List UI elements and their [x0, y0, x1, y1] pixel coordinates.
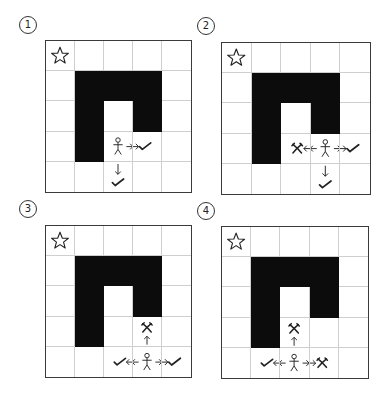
grid-cell — [340, 73, 370, 103]
grid-cell — [133, 347, 162, 377]
grid-cell — [340, 134, 370, 164]
grid-cell — [281, 164, 311, 194]
wall-cell — [251, 318, 280, 348]
grid-cell — [133, 162, 162, 192]
grid-cell — [133, 226, 162, 256]
panel-label: 2 — [197, 17, 215, 35]
grid-cell — [310, 227, 339, 257]
grid-cell — [46, 286, 75, 316]
wall-cell — [252, 134, 282, 164]
grid-cell — [252, 164, 282, 194]
grid-cell — [162, 256, 191, 286]
grid-cell — [133, 132, 162, 162]
grid-cell — [104, 132, 133, 162]
wall-cell — [75, 317, 104, 347]
grid-cell — [162, 162, 191, 192]
grid-cell — [75, 226, 104, 256]
grid-cell — [104, 162, 133, 192]
panel-1-grid — [45, 40, 192, 193]
grid-cell — [162, 226, 191, 256]
grid-cell — [162, 101, 191, 131]
wall-cell — [311, 103, 341, 133]
panel-label: 3 — [19, 200, 37, 218]
grid-cell — [133, 41, 162, 71]
grid-cell — [280, 287, 309, 317]
grid-cell — [162, 286, 191, 316]
wall-cell — [104, 71, 133, 101]
grid-cell — [222, 318, 251, 348]
wall-cell — [252, 73, 282, 103]
grid-cell — [75, 162, 104, 192]
wall-cell — [133, 101, 162, 131]
grid-cell — [222, 43, 252, 73]
grid-cell — [104, 347, 133, 377]
grid-cell — [311, 164, 341, 194]
grid-cell — [104, 101, 133, 131]
grid-cell — [46, 71, 75, 101]
grid-cell — [251, 348, 280, 378]
wall-cell — [133, 256, 162, 286]
panel-3-grid — [45, 225, 192, 378]
grid-cell — [104, 226, 133, 256]
grid-cell — [311, 134, 341, 164]
grid-cell — [252, 43, 282, 73]
grid-cell — [280, 318, 309, 348]
wall-cell — [104, 256, 133, 286]
grid-cell — [310, 348, 339, 378]
wall-cell — [311, 73, 341, 103]
grid-cell — [162, 132, 191, 162]
grid-cell — [222, 164, 252, 194]
grid-cell — [133, 317, 162, 347]
grid-cell — [46, 41, 75, 71]
grid-cell — [162, 71, 191, 101]
wall-cell — [251, 287, 280, 317]
grid-cell — [340, 164, 370, 194]
grid-cell — [280, 227, 309, 257]
grid-cell — [222, 287, 251, 317]
wall-cell — [280, 257, 309, 287]
grid-cell — [46, 162, 75, 192]
grid-cell — [46, 256, 75, 286]
grid-cell — [281, 43, 311, 73]
grid-cell — [104, 286, 133, 316]
grid-cell — [339, 257, 368, 287]
panel-label: 4 — [197, 202, 215, 220]
grid-cell — [222, 103, 252, 133]
grid-cell — [222, 134, 252, 164]
grid-cell — [280, 348, 309, 378]
grid-cell — [162, 41, 191, 71]
grid-cell — [251, 227, 280, 257]
grid-cell — [46, 317, 75, 347]
grid-cell — [340, 103, 370, 133]
grid-cell — [281, 103, 311, 133]
grid-cell — [104, 41, 133, 71]
grid-cell — [310, 318, 339, 348]
grid-cell — [339, 287, 368, 317]
wall-cell — [133, 286, 162, 316]
grid-cell — [222, 73, 252, 103]
grid-cell — [339, 348, 368, 378]
grid-cell — [311, 43, 341, 73]
grid-cell — [162, 347, 191, 377]
grid-cell — [339, 227, 368, 257]
wall-cell — [75, 71, 104, 101]
wall-cell — [310, 257, 339, 287]
wall-cell — [281, 73, 311, 103]
grid-cell — [222, 227, 251, 257]
grid-cell — [104, 317, 133, 347]
grid-cell — [46, 101, 75, 131]
grid-cell — [75, 41, 104, 71]
grid-cell — [340, 43, 370, 73]
wall-cell — [75, 286, 104, 316]
panel-2-grid — [221, 42, 371, 195]
wall-cell — [310, 287, 339, 317]
grid-cell — [339, 318, 368, 348]
grid-cell — [46, 132, 75, 162]
wall-cell — [75, 101, 104, 131]
grid-cell — [75, 347, 104, 377]
panel-label: 1 — [19, 16, 37, 34]
grid-cell — [46, 347, 75, 377]
grid-cell — [222, 348, 251, 378]
wall-cell — [252, 103, 282, 133]
grid-cell — [222, 257, 251, 287]
